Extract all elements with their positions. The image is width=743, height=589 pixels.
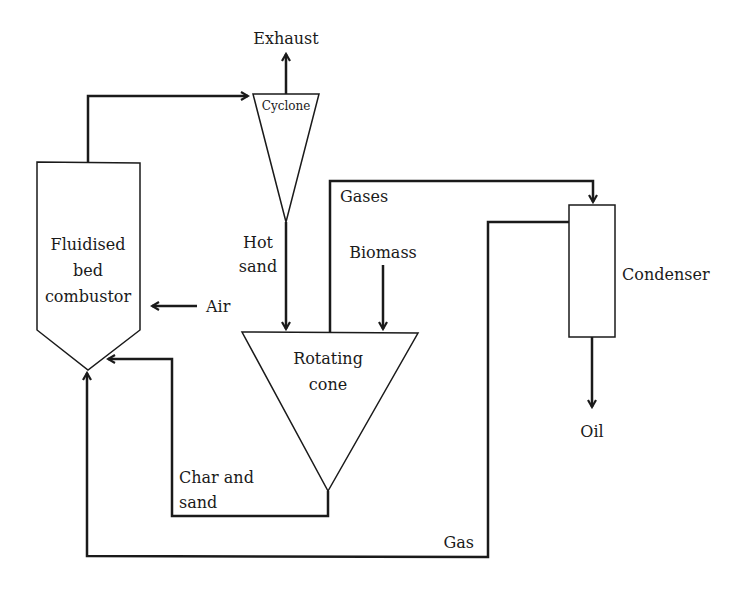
hot-sand-label-line-2: sand	[239, 257, 277, 276]
char-and-sand-label-line-2: sand	[179, 493, 217, 512]
combustor-label-line-3: combustor	[45, 287, 132, 306]
rotating-cone-label-line-2: cone	[309, 375, 347, 394]
condenser	[569, 205, 615, 337]
air-label: Air	[205, 297, 231, 316]
hot-sand-label-line-1: Hot	[243, 233, 274, 252]
fluidised-bed-combustor: Fluidised bed combustor	[37, 162, 140, 370]
combustor-label-line-1: Fluidised	[51, 235, 126, 254]
condenser-label: Condenser	[622, 265, 710, 284]
combustor-label-line-2: bed	[73, 261, 103, 280]
rotating-cone-label-line-1: Rotating	[293, 349, 363, 368]
cyclone: Cyclone	[253, 94, 319, 222]
exhaust-label: Exhaust	[253, 29, 319, 48]
gas-label: Gas	[443, 533, 474, 552]
rotating-cone: Rotating cone	[242, 332, 418, 491]
biomass-label: Biomass	[349, 243, 417, 262]
char-and-sand-label-line-1: Char and	[179, 468, 254, 487]
combustor-to-cyclone-arrow	[88, 96, 248, 162]
gases-label: Gases	[340, 187, 388, 206]
process-flow-diagram: Fluidised bed combustor Cyclone Exhaust …	[0, 0, 743, 589]
cyclone-label: Cyclone	[262, 99, 311, 113]
oil-label: Oil	[580, 422, 603, 441]
